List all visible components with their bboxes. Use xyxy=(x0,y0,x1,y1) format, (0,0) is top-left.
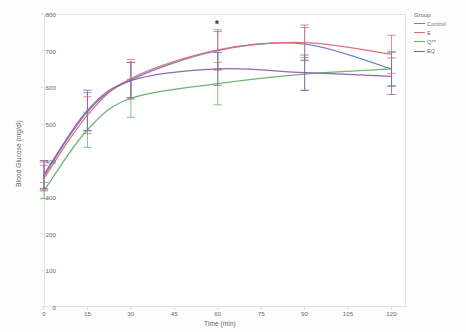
legend-item-e[interactable]: E xyxy=(414,30,466,36)
legend-title: Group xyxy=(414,12,466,18)
legend-item-q[interactable]: Q** xyxy=(414,39,466,45)
x-tick-label: 75 xyxy=(248,310,274,317)
legend-entries: ControlEQ**EQ xyxy=(414,21,466,55)
x-tick-label: 90 xyxy=(292,310,318,317)
x-tick-label: 0 xyxy=(31,310,57,317)
legend-item-control[interactable]: Control xyxy=(414,21,466,27)
axis-tick-marks xyxy=(41,14,392,310)
y-tick-label: 200 xyxy=(30,230,56,237)
legend: Group ControlEQ**EQ xyxy=(414,12,466,57)
y-tick-label: 400 xyxy=(30,157,56,164)
y-tick-label: 500 xyxy=(30,120,56,127)
figure-container: 0100200300400500600700800 01530456075901… xyxy=(0,0,466,332)
y-tick-label: 300 xyxy=(30,194,56,201)
chart-svg xyxy=(0,0,466,332)
legend-item-label: Q** xyxy=(427,39,436,45)
x-tick-label: 15 xyxy=(74,310,100,317)
series-e xyxy=(40,25,396,191)
series-eq xyxy=(40,52,396,188)
legend-color-swatch xyxy=(414,32,425,33)
x-tick-label: 60 xyxy=(205,310,231,317)
data-series-group xyxy=(40,25,396,199)
legend-item-label: EQ xyxy=(427,48,435,54)
x-axis-title: Time (min) xyxy=(0,320,440,327)
y-tick-label: 700 xyxy=(30,47,56,54)
y-tick-label: 100 xyxy=(30,267,56,274)
y-tick-label: 800 xyxy=(30,11,56,18)
significance-asterisk: * xyxy=(215,19,219,30)
y-axis-title: Blood Glucose (mg/dl) xyxy=(15,84,22,224)
x-tick-label: 105 xyxy=(335,310,361,317)
legend-color-swatch xyxy=(414,51,425,52)
y-tick-label: 600 xyxy=(30,84,56,91)
legend-color-swatch xyxy=(414,41,425,42)
x-tick-label: 45 xyxy=(161,310,187,317)
legend-item-eq[interactable]: EQ xyxy=(414,48,466,54)
x-tick-label: 30 xyxy=(118,310,144,317)
legend-color-swatch xyxy=(414,23,425,24)
x-tick-label: 120 xyxy=(379,310,405,317)
legend-item-label: E xyxy=(427,30,431,36)
legend-item-label: Control xyxy=(427,21,446,27)
